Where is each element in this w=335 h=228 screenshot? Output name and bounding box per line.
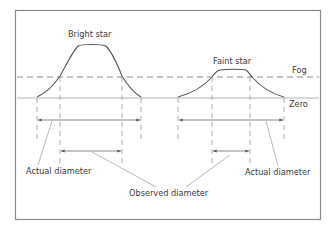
faint-star-label: Faint star xyxy=(213,56,252,66)
bright-star-label: Bright star xyxy=(68,29,112,39)
fog-label: Fog xyxy=(292,65,307,75)
observed-diameter-label: Observed diameter xyxy=(129,188,209,198)
star-diameter-diagram: Bright star Faint star Fog Zero Actual d… xyxy=(0,0,335,228)
diagram-canvas: Bright star Faint star Fog Zero Actual d… xyxy=(0,0,335,228)
bright-star-guides xyxy=(37,77,141,166)
leader-lines xyxy=(38,121,278,187)
zero-label: Zero xyxy=(289,99,308,109)
actual-diameter-right-label: Actual diameter xyxy=(245,167,311,177)
actual-diameter-left-label: Actual diameter xyxy=(26,166,92,176)
bright-star-curve xyxy=(37,45,141,98)
faint-star-curve xyxy=(178,69,284,97)
dimension-arrows xyxy=(38,120,283,151)
